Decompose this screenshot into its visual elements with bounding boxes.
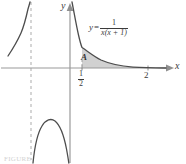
- fraction-numerator: 1: [78, 70, 84, 78]
- x-tick-label-half: 1 2: [78, 70, 84, 89]
- equation-label: y= 1 x(x + 1): [89, 19, 128, 38]
- x-tick-label-two: 2: [144, 71, 149, 80]
- region-label-a: A: [81, 53, 87, 62]
- x-axis-arrowhead: [166, 65, 174, 72]
- equation-denominator: x(x + 1): [100, 29, 128, 37]
- figure-container: y x A 1 2 2 y= 1 x(x + 1) FIGURE: [0, 0, 186, 164]
- fraction-denominator: 2: [78, 80, 84, 88]
- equation-equals-sign: =: [94, 22, 99, 32]
- equation-lhs: y: [89, 22, 93, 32]
- curve-branch-left: [8, 2, 30, 56]
- axis-label-y: y: [61, 1, 65, 11]
- equation-fraction: 1 x(x + 1): [100, 19, 128, 38]
- axis-label-x: x: [175, 61, 179, 71]
- equation-numerator: 1: [100, 19, 128, 27]
- caption-fragment: FIGURE: [4, 155, 74, 164]
- fraction-one-half: 1 2: [78, 70, 84, 89]
